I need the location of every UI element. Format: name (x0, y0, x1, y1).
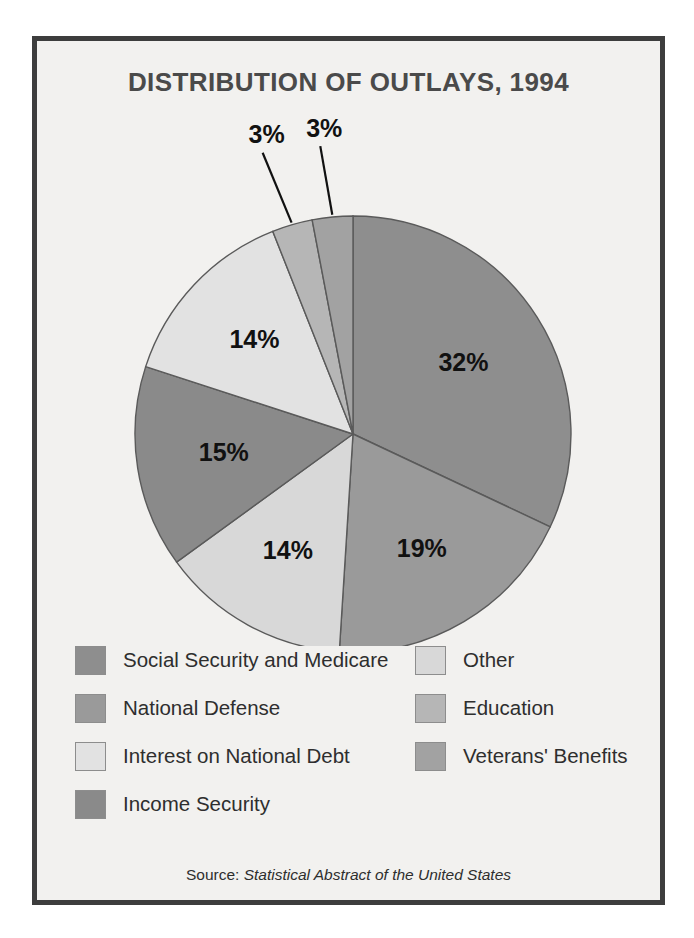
legend-item-label: Interest on National Debt (123, 744, 350, 768)
pie-chart: 32%19%14%15%14%3%3% (37, 101, 670, 646)
legend-item[interactable]: Veterans' Benefits (415, 732, 635, 780)
pie-leader-line-group (263, 146, 333, 222)
source-prefix: Source: (186, 866, 239, 883)
pie-slice-group (135, 216, 571, 646)
legend-item[interactable]: Income Security (75, 780, 393, 828)
legend-item[interactable]: Education (415, 684, 635, 732)
legend-color-swatch (75, 646, 106, 675)
legend-item-label: Social Security and Medicare (123, 648, 389, 672)
legend-item[interactable]: Social Security and Medicare (75, 636, 393, 684)
legend-item[interactable]: Other (415, 636, 635, 684)
legend-item[interactable]: National Defense (75, 684, 393, 732)
legend-item[interactable]: Interest on National Debt (75, 732, 393, 780)
pie-slice-value-label: 3% (249, 120, 285, 148)
legend-item-label: National Defense (123, 696, 280, 720)
pie-leader-line (320, 146, 332, 215)
pie-slice-value-label: 19% (397, 534, 447, 562)
legend-item-label: Other (463, 648, 514, 672)
source-publication: Statistical Abstract of the United State… (244, 866, 511, 883)
pie-leader-line (263, 153, 292, 223)
pie-slice-value-label: 15% (199, 438, 249, 466)
legend-color-swatch (75, 742, 106, 771)
legend-column: OtherEducationVeterans' Benefits (415, 636, 635, 828)
figure-frame: DISTRIBUTION OF OUTLAYS, 1994 32%19%14%1… (32, 36, 665, 905)
pie-slice-value-label: 14% (229, 325, 279, 353)
legend-item-label: Income Security (123, 792, 270, 816)
legend: Social Security and MedicareNational Def… (75, 636, 635, 828)
pie-slice-value-label: 14% (263, 536, 313, 564)
source-note: Source: Statistical Abstract of the Unit… (37, 866, 660, 884)
pie-chart-area: 32%19%14%15%14%3%3% (37, 101, 660, 646)
legend-column: Social Security and MedicareNational Def… (75, 636, 393, 828)
legend-color-swatch (75, 790, 106, 819)
pie-slice-value-label: 32% (438, 348, 488, 376)
page-title: DISTRIBUTION OF OUTLAYS, 1994 (37, 67, 660, 98)
pie-slice-value-label: 3% (306, 114, 342, 142)
legend-color-swatch (415, 694, 446, 723)
legend-color-swatch (75, 694, 106, 723)
legend-item-label: Education (463, 696, 554, 720)
legend-color-swatch (415, 646, 446, 675)
legend-item-label: Veterans' Benefits (463, 744, 628, 768)
legend-color-swatch (415, 742, 446, 771)
